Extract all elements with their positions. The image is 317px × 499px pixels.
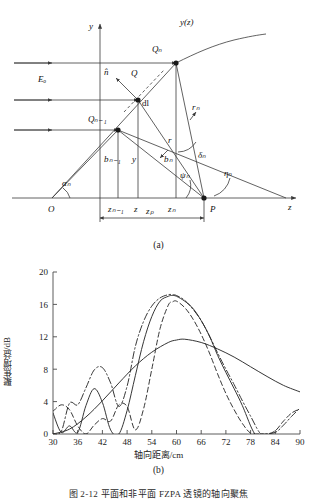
- figure-caption: 图 2-12 平面和非平面 FZPA 透镜的轴向聚焦: [0, 487, 317, 499]
- arc-eta-n: [214, 178, 230, 196]
- diagram-nodes: [115, 60, 206, 200]
- label-Qn: Qₙ: [152, 44, 163, 54]
- tick-label-z: z: [133, 204, 138, 214]
- tick-label-z-n-1: zₙ₋₁: [107, 204, 124, 214]
- label-eta-n: ηₙ: [224, 168, 232, 178]
- x-tick-label: 66: [197, 437, 207, 447]
- x-tick-label: 54: [147, 437, 157, 447]
- chart-series-group: [53, 294, 300, 435]
- node-Qn1: [115, 127, 120, 132]
- label-E0: Eₒ: [37, 74, 46, 84]
- x-tick-label: 72: [221, 437, 230, 447]
- y-tick-label: 12: [39, 332, 48, 342]
- chart-x-axis-label: 轴向距离/cm: [0, 448, 317, 461]
- node-Qn: [173, 60, 178, 65]
- tick-label-z-n: zₙ: [167, 204, 176, 214]
- x-tick-label: 42: [98, 437, 107, 447]
- rn-direction-tick: [190, 112, 196, 120]
- arc-psi-n: [186, 180, 191, 198]
- label-curve-yz: y(z): [179, 17, 194, 27]
- label-alpha-n: αₙ: [62, 178, 71, 188]
- label-P: P: [209, 204, 216, 214]
- label-psi-n: ψₙ: [180, 170, 190, 180]
- subfigure-b-label: (b): [0, 465, 317, 475]
- x-tick-label: 78: [246, 437, 256, 447]
- chart-line-curve-1-solid-broad: [53, 339, 300, 434]
- arc-alpha-n: [63, 188, 70, 198]
- x-tick-label: 36: [73, 437, 83, 447]
- node-P: [201, 195, 206, 200]
- y-tick-label: 4: [44, 397, 49, 407]
- figure-page: y z y(z) Eₒ n̂ Q Qₙ Qₙ₋₁ dl O P bₙ₋₁ y b…: [0, 0, 317, 499]
- y-tick-label: 0: [44, 429, 49, 439]
- y-tick-label: 20: [39, 267, 49, 277]
- label-r-n: rₙ: [192, 102, 200, 112]
- normal-vector-arrow: [116, 78, 138, 100]
- y-tick-label: 8: [44, 365, 49, 375]
- y-tick-label: 16: [39, 300, 49, 310]
- chart-line-curve-2-solid-narrow: [53, 295, 255, 435]
- aperture-profile-curve: [176, 34, 266, 63]
- label-z-axis: z: [287, 202, 292, 212]
- chart-y-axis-label: 聚焦增益/dB: [2, 306, 16, 416]
- label-height-y: y: [131, 154, 136, 164]
- label-O: O: [48, 204, 55, 214]
- ray-Qn1-P: [118, 130, 204, 198]
- label-r: r: [168, 135, 172, 145]
- label-b-n-1: bₙ₋₁: [104, 154, 121, 164]
- label-Q: Q: [131, 68, 138, 78]
- label-Qn-1: Qₙ₋₁: [88, 114, 107, 124]
- label-z-p: zₚ: [145, 206, 154, 216]
- x-tick-label: 84: [271, 437, 281, 447]
- label-b-n: bₙ: [164, 154, 173, 164]
- label-dl: dl: [142, 98, 150, 108]
- label-delta-n: δₙ: [198, 150, 206, 160]
- node-Q: [135, 97, 140, 102]
- x-tick-label: 48: [123, 437, 133, 447]
- chart-ticks: 3036424854606672788490048121620: [39, 267, 305, 447]
- x-tick-label: 30: [49, 437, 59, 447]
- x-tick-label: 60: [172, 437, 182, 447]
- chart-line-curve-3-dashed: [53, 301, 300, 434]
- label-n-hat: n̂: [104, 67, 109, 77]
- x-tick-label: 90: [296, 437, 306, 447]
- subfigure-a-label: (a): [0, 240, 317, 250]
- label-y-axis: y: [88, 21, 93, 31]
- diagram-fresnel-zone-plate: y z y(z) Eₒ n̂ Q Qₙ Qₙ₋₁ dl O P bₙ₋₁ y b…: [0, 0, 317, 236]
